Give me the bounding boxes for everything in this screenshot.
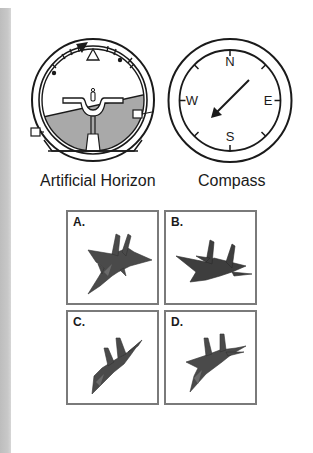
artificial-horizon-caption: Artificial Horizon <box>40 172 146 190</box>
option-a-label: A. <box>73 215 85 229</box>
compass-south-label: S <box>226 129 235 144</box>
page-gutter <box>0 8 11 453</box>
compass-north-label: N <box>225 54 234 69</box>
option-c-label: C. <box>73 315 85 329</box>
compass-west-label: W <box>186 93 199 108</box>
option-b-box[interactable]: B. <box>164 210 257 305</box>
compass-east-label: E <box>264 93 273 108</box>
option-b-label: B. <box>171 215 183 229</box>
option-a-box[interactable]: A. <box>66 210 159 305</box>
compass-caption: Compass <box>198 172 262 190</box>
artificial-horizon-icon <box>30 36 156 166</box>
compass-icon: N E S W <box>167 36 295 166</box>
option-d-box[interactable]: D. <box>164 310 257 405</box>
option-d-label: D. <box>171 315 183 329</box>
option-c-box[interactable]: C. <box>66 310 159 405</box>
